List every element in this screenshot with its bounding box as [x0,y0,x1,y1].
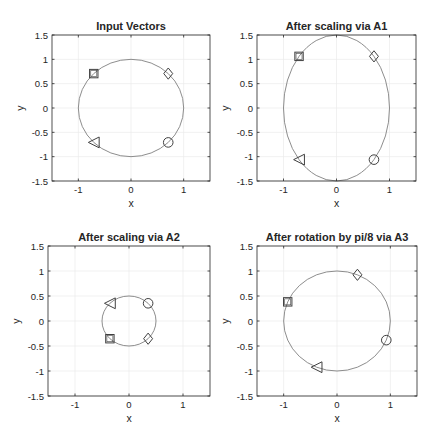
x-axis-label: x [128,197,134,209]
y-tick-label: 0.5 [35,78,48,89]
x-axis-label: x [334,197,340,209]
x-tick-label: -1 [279,184,287,195]
y-tick-label: -1 [36,366,44,377]
y-tick-label: -1 [245,366,253,377]
y-tick-label: 1 [43,54,48,65]
y-axis-label: y [14,105,26,111]
y-tick-label: 1.5 [240,30,253,41]
y-tick-label: 0 [248,316,253,327]
chart-title: Input Vectors [96,20,166,32]
y-tick-label: -0.5 [237,127,253,138]
subplot-2: -101-1.5-1-0.500.511.5After scaling via … [219,20,416,209]
y-tick-label: 0.5 [31,291,44,302]
x-tick-label: -1 [71,399,79,410]
figure-canvas: -101-1.5-1-0.500.511.5Input Vectorsxy-10… [0,0,438,442]
y-tick-label: -1.5 [237,176,253,187]
x-tick-label: 0 [334,184,339,195]
subplot-1: -101-1.5-1-0.500.511.5Input Vectorsxy [14,20,210,209]
y-tick-label: 0 [43,103,48,114]
x-tick-label: -1 [279,399,287,410]
y-tick-label: -0.5 [32,127,48,138]
chart-title: After scaling via A1 [286,20,388,32]
y-tick-label: 0 [248,103,253,114]
y-tick-label: 0.5 [240,78,253,89]
x-tick-label: 1 [387,184,392,195]
x-tick-label: 1 [388,399,393,410]
chart-title: After rotation by pi/8 via A3 [266,231,409,243]
y-tick-label: 0 [39,316,44,327]
y-tick-label: -1.5 [32,176,48,187]
y-tick-label: 0.5 [240,291,253,302]
y-tick-label: -0.5 [28,341,44,352]
x-tick-label: 0 [126,399,131,410]
y-axis-label: y [219,318,231,324]
y-tick-label: -1.5 [237,391,253,402]
y-axis-label: y [219,105,231,111]
x-axis-label: x [126,412,132,424]
y-tick-label: 1.5 [240,241,253,252]
y-tick-label: -1 [40,151,48,162]
y-tick-label: -1 [245,151,253,162]
x-tick-label: 1 [181,184,186,195]
subplot-4: -101-1.5-1-0.500.511.5After rotation by … [219,231,417,424]
y-tick-label: 1 [248,54,253,65]
y-tick-label: 1 [248,266,253,277]
y-axis-label: y [10,318,22,324]
subplot-3: -101-1.5-1-0.500.511.5After scaling via … [10,231,210,424]
y-tick-label: -1.5 [28,391,44,402]
x-axis-label: x [334,412,340,424]
y-tick-label: -0.5 [237,341,253,352]
y-tick-label: 1 [39,266,44,277]
y-tick-label: 1.5 [35,30,48,41]
x-tick-label: 1 [180,399,185,410]
chart-title: After scaling via A2 [78,231,180,243]
x-tick-label: 0 [334,399,339,410]
x-tick-label: -1 [74,184,82,195]
x-tick-label: 0 [128,184,133,195]
y-tick-label: 1.5 [31,241,44,252]
